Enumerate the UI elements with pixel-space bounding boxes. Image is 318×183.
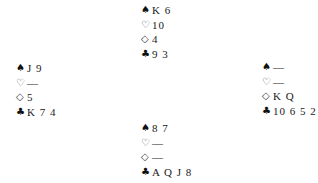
north-clubs: ♣ 9 3	[141, 47, 171, 62]
club-icon: ♣	[141, 165, 152, 180]
east-clubs-cards: 10 6 5 2	[273, 104, 317, 119]
north-diamonds: ◇ 4	[141, 32, 171, 47]
heart-icon: ♡	[16, 76, 27, 91]
north-spades-cards: K 6	[152, 3, 171, 18]
west-hearts: ♡ —	[16, 76, 56, 91]
east-hearts: ♡ —	[262, 75, 317, 90]
south-clubs-cards: A Q J 8	[152, 165, 192, 180]
club-icon: ♣	[141, 47, 152, 62]
west-clubs: ♣ K 7 4	[16, 105, 56, 120]
diamond-icon: ◇	[262, 89, 273, 104]
south-hand: ♠ 8 7 ♡ — ◇ — ♣ A Q J 8	[141, 121, 192, 179]
west-spades: ♠ J 9	[16, 61, 56, 76]
club-icon: ♣	[262, 104, 273, 119]
diamond-icon: ◇	[141, 150, 152, 165]
east-spades-cards: —	[273, 60, 285, 75]
west-diamonds-cards: 5	[27, 90, 34, 105]
north-spades: ♠ K 6	[141, 3, 171, 18]
spade-icon: ♠	[141, 121, 152, 136]
east-diamonds: ◇ K Q	[262, 89, 317, 104]
west-hand: ♠ J 9 ♡ — ◇ 5 ♣ K 7 4	[16, 61, 56, 119]
south-clubs: ♣ A Q J 8	[141, 165, 192, 180]
spade-icon: ♠	[16, 61, 27, 76]
north-clubs-cards: 9 3	[152, 47, 169, 62]
east-spades: ♠ —	[262, 60, 317, 75]
west-clubs-cards: K 7 4	[27, 105, 56, 120]
south-hearts-cards: —	[152, 136, 164, 151]
diamond-icon: ◇	[16, 90, 27, 105]
west-diamonds: ◇ 5	[16, 90, 56, 105]
south-diamonds-cards: —	[152, 150, 164, 165]
south-spades: ♠ 8 7	[141, 121, 192, 136]
north-hearts: ♡ 10	[141, 18, 171, 33]
west-hearts-cards: —	[27, 76, 39, 91]
east-hand: ♠ — ♡ — ◇ K Q ♣ 10 6 5 2	[262, 60, 317, 118]
spade-icon: ♠	[262, 60, 273, 75]
north-hand: ♠ K 6 ♡ 10 ◇ 4 ♣ 9 3	[141, 3, 171, 61]
heart-icon: ♡	[262, 75, 273, 90]
south-hearts: ♡ —	[141, 136, 192, 151]
club-icon: ♣	[16, 105, 27, 120]
south-diamonds: ◇ —	[141, 150, 192, 165]
heart-icon: ♡	[141, 18, 152, 33]
east-clubs: ♣ 10 6 5 2	[262, 104, 317, 119]
north-hearts-cards: 10	[152, 18, 165, 33]
heart-icon: ♡	[141, 136, 152, 151]
south-spades-cards: 8 7	[152, 121, 169, 136]
west-spades-cards: J 9	[27, 61, 43, 76]
diamond-icon: ◇	[141, 32, 152, 47]
east-hearts-cards: —	[273, 75, 285, 90]
east-diamonds-cards: K Q	[273, 89, 295, 104]
spade-icon: ♠	[141, 3, 152, 18]
north-diamonds-cards: 4	[152, 32, 159, 47]
